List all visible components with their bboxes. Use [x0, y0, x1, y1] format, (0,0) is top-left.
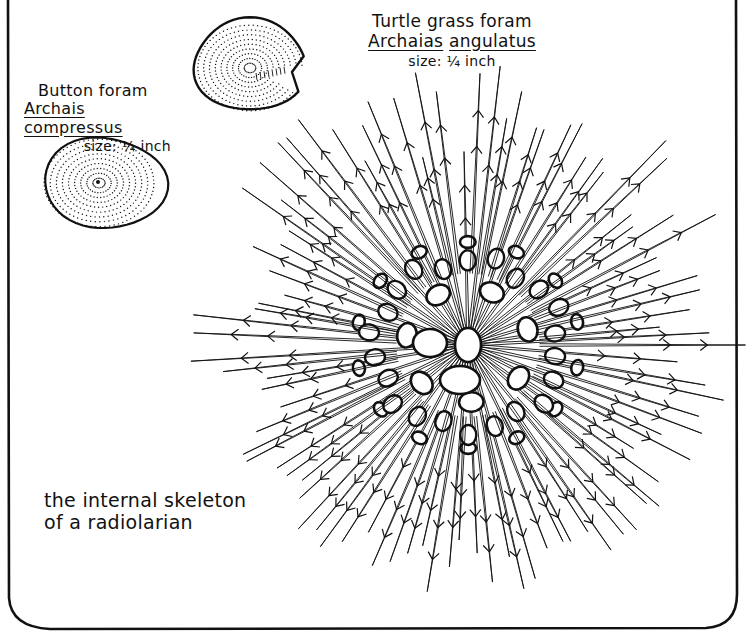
turtle-grass-foram-label: Turtle grass foram Archaias angulatus si… — [352, 12, 552, 69]
button-foram-genus: Archais — [24, 99, 85, 118]
button-foram-size: size: ¼ inch — [22, 138, 177, 154]
radiolarian-caption-line-1: the internal skeleton — [44, 490, 246, 512]
turtle-grass-foram-common-name: Turtle grass foram — [352, 12, 552, 32]
button-foram-common-name: Button foram — [22, 82, 177, 100]
radiolarian-caption: the internal skeleton of a radiolarian — [44, 490, 246, 534]
turtle-grass-foram-species: angulatus — [449, 31, 536, 51]
turtle-grass-foram-scientific-name: Archaias angulatus — [352, 32, 552, 52]
turtle-grass-foram-genus: Archaias — [368, 31, 443, 51]
radiolarian-caption-line-2: of a radiolarian — [44, 512, 246, 534]
turtle-grass-foram-drawing — [194, 17, 304, 111]
button-foram-scientific-name: Archais compressus — [22, 100, 177, 137]
radiolarian-spines-back — [191, 66, 724, 578]
button-foram-label: Button foram Archais compressus size: ¼ … — [22, 82, 177, 154]
turtle-grass-foram-size: size: ¼ inch — [352, 53, 552, 69]
button-foram-species: compressus — [24, 118, 123, 137]
